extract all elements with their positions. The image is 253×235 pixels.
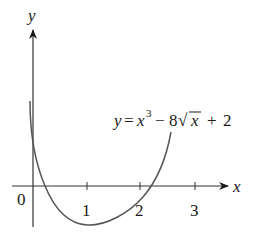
x-tick-label-3: 3	[190, 201, 199, 220]
eq-equals: =	[124, 111, 134, 130]
function-curve	[30, 101, 171, 225]
y-axis-label: y	[26, 6, 36, 25]
eq-minus: −	[155, 111, 165, 130]
origin-label: 0	[17, 190, 26, 209]
eq-exponent: 3	[146, 107, 152, 119]
equation-label: y = x 3 − 8 √ x + 2	[112, 107, 232, 130]
x-axis-label: x	[232, 177, 241, 196]
function-graph: y x 0 1 2 3 y = x 3 − 8 √ x + 2	[0, 0, 253, 235]
x-tick-label-2: 2	[135, 201, 144, 220]
eq-coefficient: 8	[169, 111, 178, 130]
eq-x: x	[136, 111, 145, 130]
eq-plus: +	[207, 111, 217, 130]
eq-constant: 2	[223, 111, 232, 130]
eq-radical: √	[178, 111, 188, 130]
x-tick-label-1: 1	[82, 201, 91, 220]
eq-radicand: x	[190, 111, 199, 130]
eq-y: y	[112, 111, 122, 130]
